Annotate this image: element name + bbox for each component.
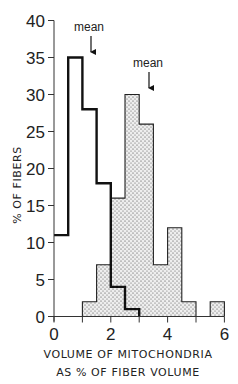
- stippled-bar: [182, 302, 196, 317]
- y-tick-label: 15: [26, 197, 45, 216]
- mean-label-left: mean: [74, 20, 104, 34]
- y-tick-label: 30: [26, 86, 45, 105]
- stippled-bar: [125, 95, 139, 317]
- mean-annotation-right: mean: [133, 56, 163, 88]
- x-tick-label: 6: [220, 325, 229, 344]
- stippled-bar: [153, 265, 167, 317]
- y-tick-label: 25: [26, 123, 45, 142]
- y-tick-label: 20: [26, 160, 45, 179]
- stippled-bar: [82, 302, 96, 317]
- y-axis-title: % OF FIBERS: [11, 146, 24, 224]
- x-tick-labels: 0246: [49, 325, 229, 344]
- mitochondria-histogram: 0510152025303540 0246 VOLUME OF MITOCHON…: [0, 0, 238, 384]
- stippled-bar: [97, 265, 111, 317]
- x-axis-title-line2: AS % OF FIBER VOLUME: [56, 366, 200, 379]
- y-tick-label: 40: [26, 12, 45, 31]
- y-tick-label: 5: [36, 271, 45, 290]
- x-axis-title-line1: VOLUME OF MITOCHONDRIA: [43, 348, 212, 361]
- mean-annotation-left: mean: [74, 20, 104, 52]
- y-tick-label: 10: [26, 234, 45, 253]
- y-tick-labels: 0510152025303540: [26, 12, 45, 327]
- stippled-bar: [168, 228, 182, 317]
- stippled-bar: [210, 302, 224, 317]
- x-tick-label: 0: [49, 325, 58, 344]
- y-tick-label: 0: [36, 308, 45, 327]
- stippled-bar: [111, 198, 125, 316]
- mean-label-right: mean: [133, 56, 163, 70]
- y-tick-label: 35: [26, 49, 45, 68]
- x-tick-label: 2: [106, 325, 115, 344]
- x-tick-label: 4: [163, 325, 172, 344]
- stippled-histogram-series: [82, 95, 224, 317]
- stippled-bar: [139, 124, 153, 316]
